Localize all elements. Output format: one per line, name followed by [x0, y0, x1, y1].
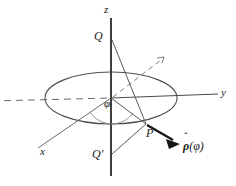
diagram-svg — [0, 0, 236, 186]
unit-vector-arrow-head — [166, 139, 180, 149]
unit-vector-rho-label: ˆ ρ (φ) — [183, 140, 204, 152]
angle-phi-label: φ — [104, 98, 110, 109]
x-axis-line — [38, 98, 111, 148]
x-axis-label: x — [40, 146, 45, 157]
point-p-label: P — [146, 127, 153, 139]
point-q-prime-label: Q′ — [92, 148, 103, 160]
y-axis-dashed-segment — [4, 98, 111, 101]
figure-canvas: z y x Q Q′ P φ ˆ ρ (φ) — [0, 0, 236, 186]
y-axis-label: y — [221, 87, 226, 98]
line-qprime-to-p — [112, 124, 146, 154]
y-axis-line — [111, 94, 218, 98]
rho-argument: (φ) — [189, 139, 204, 153]
z-axis-label: z — [104, 4, 108, 15]
hat-accent-icon: ˆ — [184, 132, 187, 142]
point-q-label: Q — [94, 30, 103, 42]
rho-symbol: ˆ ρ — [183, 140, 189, 152]
